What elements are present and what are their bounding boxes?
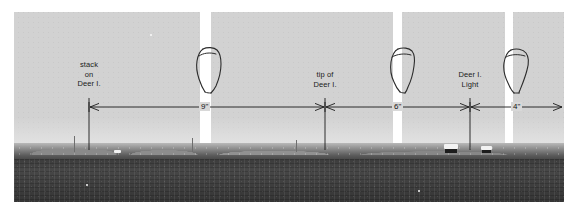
label-line: Deer I. — [64, 79, 114, 89]
annotated-panorama-figure: stack on Deer I. tip of Deer I. Deer I. … — [0, 0, 577, 214]
label-line: stack — [64, 60, 114, 70]
label-line: Deer I. — [300, 80, 350, 90]
label-line: on — [64, 70, 114, 80]
label-line: Deer I. — [445, 70, 495, 80]
label-line: Light — [445, 80, 495, 90]
dimension-value-6: 6" — [392, 102, 403, 111]
label-line: tip of — [300, 70, 350, 80]
label-deer-island-light: Deer I. Light — [445, 70, 495, 89]
label-stack-on-deer-island: stack on Deer I. — [64, 60, 114, 89]
annotation-overlay — [0, 0, 577, 214]
dimension-value-9: 9" — [199, 102, 210, 111]
label-tip-of-deer-island: tip of Deer I. — [300, 70, 350, 89]
dimension-value-4: 4" — [511, 102, 522, 111]
